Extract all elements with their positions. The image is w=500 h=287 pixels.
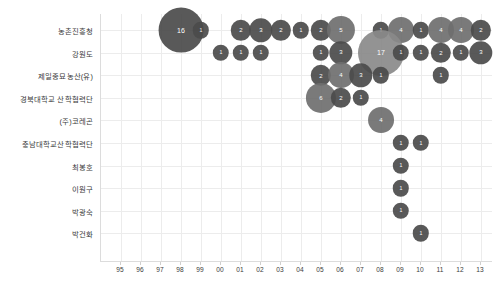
bubble-data-point[interactable]: 2: [231, 20, 251, 40]
y-axis-tick-label: 농촌진흥청: [58, 25, 94, 36]
bubble-data-point[interactable]: 1: [253, 45, 269, 61]
x-tick-mark: [460, 262, 461, 265]
bubble-data-point[interactable]: 4: [368, 107, 394, 133]
bubble-data-point[interactable]: 1: [293, 22, 309, 38]
x-axis-tick-label: 00: [216, 266, 223, 273]
vertical-gridline: [141, 14, 142, 261]
x-tick-mark: [320, 262, 321, 265]
bubble-data-point[interactable]: 1: [213, 45, 229, 61]
x-axis-tick-label: 96: [136, 266, 143, 273]
bubble-data-point[interactable]: 3: [249, 19, 272, 42]
x-tick-mark: [260, 262, 261, 265]
x-axis-tick-label: 97: [156, 266, 163, 273]
x-tick-mark: [160, 262, 161, 265]
vertical-gridline: [301, 14, 302, 261]
horizontal-gridline: [101, 98, 492, 99]
bubble-data-point[interactable]: 1: [393, 202, 409, 218]
horizontal-gridline: [101, 211, 492, 212]
x-axis-tick-label: 03: [276, 266, 283, 273]
x-axis-tick-label: 98: [176, 266, 183, 273]
bubble-data-point[interactable]: 3: [329, 41, 352, 64]
x-tick-mark: [440, 262, 441, 265]
x-axis: 95969798990001020304050607080910111213: [100, 266, 492, 284]
x-axis-tick-label: 12: [456, 266, 463, 273]
bubble-data-point[interactable]: 1: [313, 45, 329, 61]
y-axis-tick-label: 이원구: [72, 183, 93, 194]
y-axis: 농촌진흥청강원도제일종묘농산(유)경북대학교 산학협력단(주)코레곤충남대학교산…: [0, 0, 98, 287]
x-tick-mark: [300, 262, 301, 265]
x-tick-mark: [180, 262, 181, 265]
x-axis-tick-label: 11: [437, 266, 444, 273]
bubble-data-point[interactable]: 3: [469, 41, 492, 64]
bubble-data-point[interactable]: 2: [471, 20, 491, 40]
bubble-data-point[interactable]: 1: [393, 135, 409, 151]
x-tick-mark: [420, 262, 421, 265]
x-tick-mark: [220, 262, 221, 265]
x-axis-tick-label: 07: [356, 266, 363, 273]
y-axis-tick-label: 박광숙: [72, 205, 93, 216]
x-axis-tick-label: 13: [476, 266, 483, 273]
bubble-data-point[interactable]: 1: [453, 45, 469, 61]
bubble-data-point[interactable]: 1: [393, 45, 409, 61]
horizontal-gridline: [101, 143, 492, 144]
x-axis-tick-label: 02: [256, 266, 263, 273]
horizontal-gridline: [101, 120, 492, 121]
x-tick-mark: [400, 262, 401, 265]
x-axis-tick-label: 99: [196, 266, 203, 273]
bubble-data-point[interactable]: 1: [393, 180, 409, 196]
x-axis-tick-label: 06: [336, 266, 343, 273]
bubble-data-point[interactable]: 1: [393, 157, 409, 173]
x-axis-tick-label: 05: [316, 266, 323, 273]
bubble-data-point[interactable]: 2: [331, 88, 351, 108]
y-axis-tick-label: 박건화: [72, 228, 93, 239]
y-axis-tick-label: (주)코레곤: [59, 115, 93, 126]
vertical-gridline: [121, 14, 122, 261]
x-tick-mark: [380, 262, 381, 265]
x-axis-tick-label: 04: [296, 266, 303, 273]
bubble-chart: 농촌진흥청강원도제일종묘농산(유)경북대학교 산학협력단(주)코레곤충남대학교산…: [0, 0, 500, 287]
y-axis-tick-label: 최봉호: [72, 160, 93, 171]
bubble-data-point[interactable]: 2: [271, 20, 291, 40]
vertical-gridline: [161, 14, 162, 261]
y-axis-tick-label: 경북대학교 산학협력단: [20, 92, 93, 103]
y-axis-tick-label: 강원도: [72, 47, 93, 58]
plot-area: 1612321251414421111317112132431162141111…: [100, 14, 492, 262]
x-axis-tick-label: 08: [376, 266, 383, 273]
x-tick-mark: [480, 262, 481, 265]
x-axis-tick-label: 95: [116, 266, 123, 273]
bubble-data-point[interactable]: 5: [327, 16, 355, 44]
horizontal-gridline: [101, 166, 492, 167]
bubble-data-point[interactable]: 1: [193, 22, 209, 38]
bubble-data-point[interactable]: 1: [233, 45, 249, 61]
vertical-gridline: [201, 14, 202, 261]
bubble-data-point[interactable]: 1: [413, 225, 429, 241]
horizontal-gridline: [101, 188, 492, 189]
x-tick-mark: [200, 262, 201, 265]
x-tick-mark: [280, 262, 281, 265]
x-tick-mark: [340, 262, 341, 265]
x-axis-tick-label: 09: [396, 266, 403, 273]
x-axis-tick-label: 01: [236, 266, 243, 273]
bubble-data-point[interactable]: 1: [413, 45, 429, 61]
bubble-data-point[interactable]: 1: [413, 22, 429, 38]
x-axis-tick-label: 10: [416, 266, 423, 273]
vertical-gridline: [281, 14, 282, 261]
x-tick-mark: [360, 262, 361, 265]
bubble-data-point[interactable]: 1: [373, 67, 389, 83]
bubble-data-point[interactable]: 3: [349, 64, 372, 87]
y-axis-tick-label: 제일종묘농산(유): [38, 70, 93, 81]
bubble-data-point[interactable]: 2: [431, 43, 451, 63]
bubble-data-point[interactable]: 1: [413, 135, 429, 151]
x-tick-mark: [140, 262, 141, 265]
x-tick-mark: [120, 262, 121, 265]
bubble-data-point[interactable]: 1: [353, 90, 369, 106]
x-tick-mark: [240, 262, 241, 265]
horizontal-gridline: [101, 233, 492, 234]
y-axis-tick-label: 충남대학교산학협력단: [22, 137, 93, 148]
bubble-data-point[interactable]: 1: [433, 67, 449, 83]
